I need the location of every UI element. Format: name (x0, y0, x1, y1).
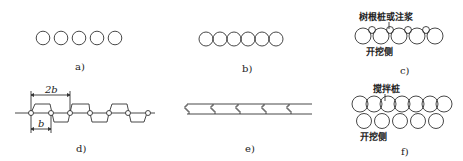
panel-b (199, 32, 283, 46)
caption-f: f) (401, 146, 409, 157)
annotation-root-pile-or-grout: 树根桩或注浆 (359, 11, 414, 22)
caption-b: b) (242, 63, 252, 74)
dimension-b: b (38, 118, 44, 129)
annotation-excavation-side-f: 开挖侧 (360, 131, 387, 142)
dimension-2b: 2b (44, 84, 58, 95)
pile-arrangement-diagram: a) b) 树根桩或注浆 开挖侧 c) (0, 0, 463, 161)
annotation-mixing-pile: 搅拌桩 (373, 83, 400, 94)
panel-a (36, 31, 122, 45)
panel-c (355, 22, 443, 44)
caption-c: c) (400, 65, 410, 76)
panel-f (352, 94, 452, 129)
caption-a: a) (75, 61, 85, 72)
caption-d: d) (76, 143, 86, 154)
annotation-excavation-side-c: 开挖侧 (366, 46, 393, 57)
panel-d (15, 91, 155, 133)
caption-e: e) (245, 143, 255, 154)
panel-e (185, 104, 312, 114)
